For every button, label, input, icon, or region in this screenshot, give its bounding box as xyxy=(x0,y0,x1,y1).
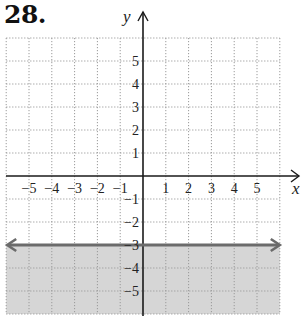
x-tick-label: 4 xyxy=(231,181,238,196)
x-tick-label: −4 xyxy=(44,181,59,196)
y-tick-label: 1 xyxy=(132,146,139,161)
y-tick-label: −1 xyxy=(124,192,139,207)
y-tick-label: −2 xyxy=(124,215,139,230)
x-axis-label: x xyxy=(291,179,300,198)
y-tick-label: 4 xyxy=(132,77,139,92)
x-tick-label: 2 xyxy=(185,181,192,196)
x-tick-label: 5 xyxy=(254,181,261,196)
x-tick-label: 3 xyxy=(208,181,215,196)
y-tick-label: 3 xyxy=(132,100,139,115)
y-tick-label: 5 xyxy=(132,54,139,69)
y-tick-label: 2 xyxy=(132,123,139,138)
x-tick-label: 1 xyxy=(162,181,169,196)
x-tick-label: −2 xyxy=(90,181,105,196)
y-tick-label: −3 xyxy=(124,238,139,253)
y-tick-label: −4 xyxy=(124,261,139,276)
x-tick-label: −5 xyxy=(22,181,37,196)
coordinate-plane: xy −5−4−3−2−112345−5−4−3−2−112345 xyxy=(0,0,303,320)
y-tick-label: −5 xyxy=(124,284,139,299)
y-axis-label: y xyxy=(121,7,131,26)
x-tick-label: −3 xyxy=(67,181,82,196)
